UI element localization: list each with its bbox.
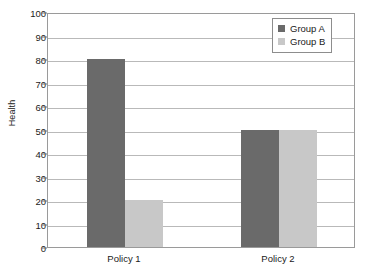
bar: [87, 59, 125, 247]
legend-item: Group A: [278, 22, 325, 35]
legend-label: Group A: [290, 22, 325, 35]
legend-swatch-icon: [278, 25, 285, 32]
legend-label: Group B: [290, 35, 325, 48]
x-axis-tick-label: Policy 1: [107, 253, 140, 264]
bar: [279, 130, 317, 248]
bar: [125, 200, 163, 247]
legend-item: Group B: [278, 35, 325, 48]
x-axis-tick-label: Policy 2: [261, 253, 294, 264]
chart-legend: Group AGroup B: [272, 18, 332, 53]
y-axis-title: Health: [7, 83, 17, 143]
legend-swatch-icon: [278, 38, 285, 45]
bar-chart: Health 0102030405060708090100 Policy 1Po…: [0, 0, 368, 276]
bar: [241, 130, 279, 248]
